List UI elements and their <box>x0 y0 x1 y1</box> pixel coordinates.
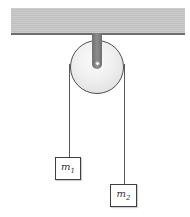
mass-label-m2: m2 <box>117 189 131 202</box>
mass-box-m2: m2 <box>110 184 137 207</box>
pulley-axle <box>95 61 100 66</box>
mass-label-m1: m1 <box>61 162 75 175</box>
string-left <box>69 64 70 158</box>
string-right <box>124 64 125 185</box>
ceiling-beam <box>11 8 185 35</box>
pulley-diagram: m1 m2 <box>0 0 190 217</box>
mass-box-m1: m1 <box>55 157 81 180</box>
